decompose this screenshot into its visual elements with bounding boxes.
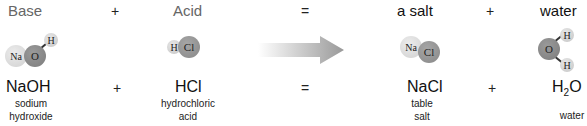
hcl-name: hydrochloric acid: [150, 97, 226, 123]
salt-label: a salt: [397, 2, 433, 19]
water-label: water: [540, 2, 577, 19]
plus-sign: +: [488, 80, 496, 96]
h2o-molecule: O H H: [535, 26, 585, 76]
nacl-name: table salt: [402, 97, 442, 123]
hcl-molecule: H Cl: [164, 35, 214, 65]
equals-sign: =: [301, 80, 309, 96]
naoh-name: sodium hydroxide: [6, 97, 56, 123]
oxygen-atom: O: [24, 45, 46, 67]
naoh-molecule: Na O H: [0, 28, 70, 72]
chlorine-atom: Cl: [178, 36, 200, 58]
plus-sign: +: [113, 80, 121, 96]
equals-sign: =: [301, 3, 309, 19]
h2o-formula: H2O: [552, 78, 582, 98]
nacl-molecule: Na Cl: [398, 33, 448, 67]
h2o-name: water: [555, 109, 587, 122]
hydrogen-atom: H: [560, 28, 574, 42]
chlorine-atom: Cl: [418, 41, 440, 63]
plus-sign: +: [111, 3, 119, 19]
hydrogen-atom: H: [44, 33, 58, 47]
hydrogen-atom: H: [560, 58, 574, 72]
base-label: Base: [8, 2, 42, 19]
naoh-formula: NaOH: [6, 78, 50, 96]
hcl-formula: HCl: [175, 78, 202, 96]
oxygen-atom: O: [538, 38, 560, 60]
reaction-arrow-icon: [258, 36, 344, 64]
plus-sign: +: [486, 3, 494, 19]
acid-label: Acid: [173, 2, 202, 19]
nacl-formula: NaCl: [407, 78, 443, 96]
